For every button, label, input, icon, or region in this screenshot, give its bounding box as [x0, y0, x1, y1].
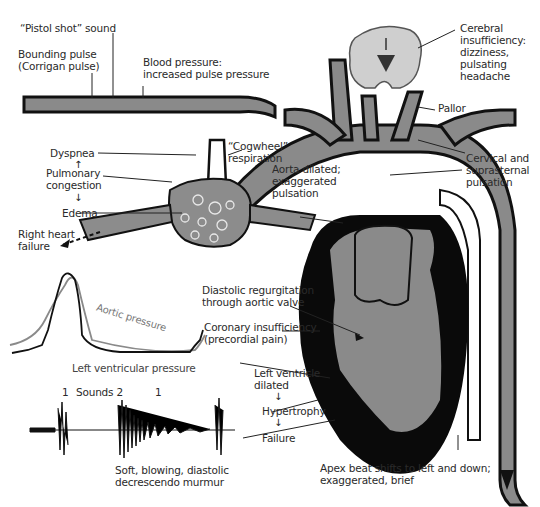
label-aorta-dilated: Aorta dilated;	[272, 163, 341, 175]
label-dizziness: dizziness,	[460, 46, 509, 58]
label-edema: Edema	[62, 207, 97, 219]
label-corrigan-pulse: (Corrigan pulse)	[18, 60, 99, 72]
phonocardiogram	[30, 398, 235, 458]
label-left-ventricular-pressure: Left ventricular pressure	[72, 362, 196, 374]
label-bounding-pulse: Bounding pulse	[18, 48, 97, 60]
brain	[350, 26, 422, 88]
label-apex-exaggerated: exaggerated, brief	[320, 474, 414, 486]
label-sound-1a: 1	[62, 386, 68, 398]
label-murmur-1: Soft, blowing, diastolic	[115, 464, 229, 476]
arrow-down-icon: ↓	[274, 392, 282, 402]
label-pulsating: pulsating	[460, 58, 507, 70]
arrow-down-icon: ↓	[74, 193, 82, 203]
label-precordial-pain: (precordial pain)	[204, 333, 287, 345]
label-failure-right: failure	[18, 240, 50, 252]
label-aorta-pulsation: pulsation	[272, 187, 318, 199]
label-left-ventricle: Left ventricle	[254, 367, 320, 379]
label-murmur-2: decrescendo murmur	[115, 476, 224, 488]
label-apex-beat: Apex beat shifts to left and down;	[320, 462, 491, 474]
heart	[299, 215, 468, 474]
anatomy-illustration	[0, 0, 540, 507]
label-cogwheel: “Cogwheel”	[228, 140, 288, 152]
label-through-aortic-valve: through aortic valve	[202, 296, 304, 308]
label-cerebral-insufficiency: insufficiency:	[460, 34, 526, 46]
label-sound-1b: 1	[155, 386, 161, 398]
label-right-heart: Right heart	[18, 228, 75, 240]
label-exaggerated: exaggerated	[272, 175, 337, 187]
label-pistol-shot-sound: “Pistol shot” sound	[20, 22, 116, 34]
label-dyspnea: Dyspnea	[50, 147, 95, 159]
label-failure: Failure	[262, 432, 295, 444]
label-blood-pressure: Blood pressure:	[143, 56, 222, 68]
label-sounds-2: Sounds 2	[76, 386, 123, 398]
label-congestion: congestion	[46, 179, 102, 191]
label-hypertrophy: Hypertrophy	[262, 405, 326, 417]
aortic-regurgitation-diagram: “Pistol shot” sound Bounding pulse (Corr…	[0, 0, 540, 507]
label-pulmonary: Pulmonary	[46, 167, 100, 179]
label-suprasternal: suprasternal	[466, 164, 529, 176]
systemic-artery	[24, 97, 275, 117]
label-dilated: dilated	[254, 379, 289, 391]
arrow-down-icon: ↓	[274, 418, 282, 428]
label-pulsation: pulsation	[466, 176, 512, 188]
label-cervical: Cervical and	[466, 152, 529, 164]
label-diastolic-regurgitation: Diastolic regurgitation	[202, 284, 314, 296]
label-cerebral: Cerebral	[460, 22, 503, 34]
label-pallor: Pallor	[438, 102, 466, 114]
label-pulse-pressure: increased pulse pressure	[143, 68, 269, 80]
label-headache: headache	[460, 70, 510, 82]
label-coronary-insufficiency: Coronary insufficiency	[204, 321, 317, 333]
